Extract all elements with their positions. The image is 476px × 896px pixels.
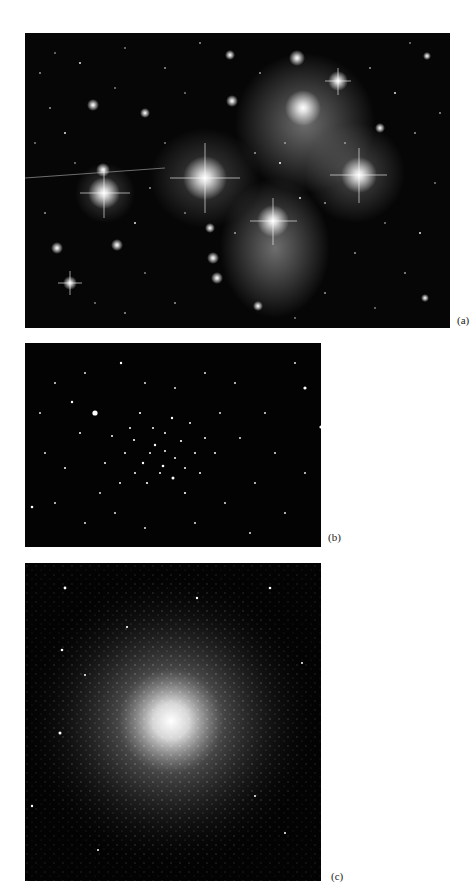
star-field-image-c [25,563,321,881]
panel-label-b: (b) [328,531,341,543]
figure-panel-a-open-cluster-nebula [25,33,450,328]
star-field-image-a [25,33,450,328]
figure-panel-b-open-cluster [25,343,321,547]
panel-label-a: (a) [457,314,469,326]
star-field-image-b [25,343,321,547]
figure-panel-c-globular-cluster [25,563,321,881]
panel-label-c: (c) [331,870,343,882]
